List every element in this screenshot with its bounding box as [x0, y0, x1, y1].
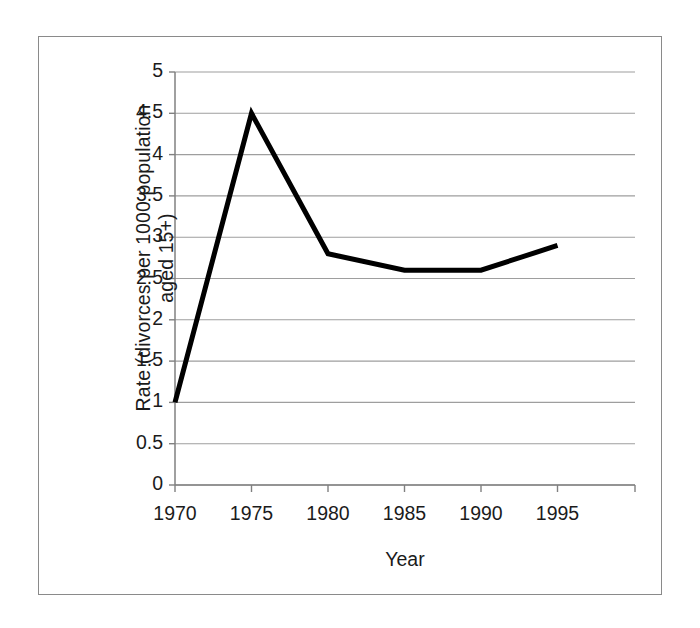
x-axis-title: Year: [175, 548, 635, 571]
y-axis-tick-label: 1: [103, 389, 163, 412]
y-axis-tick-label: 3: [103, 224, 163, 247]
y-axis-tick-label: 0: [103, 472, 163, 495]
y-axis-tick-label: 5: [103, 59, 163, 82]
y-axis-tick-label: 2: [103, 307, 163, 330]
data-series-divorce-rate: [175, 113, 558, 402]
y-axis-tick-label: 0.5: [103, 431, 163, 454]
y-axis-tick-label: 4.5: [103, 100, 163, 123]
y-axis-tick-label: 2.5: [103, 266, 163, 289]
x-axis-tick-label: 1995: [513, 502, 603, 525]
chart-figure: 54.543.532.521.510.50 197019751980198519…: [0, 0, 700, 628]
y-axis-tick-label: 4: [103, 142, 163, 165]
axis-ticks: [169, 72, 635, 492]
y-axis-tick-label: 1.5: [103, 348, 163, 371]
y-axis-tick-label: 3.5: [103, 183, 163, 206]
